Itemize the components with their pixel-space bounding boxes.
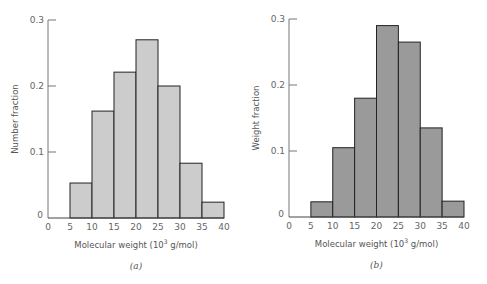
histogram-bar (136, 40, 158, 218)
histogram-bar (92, 111, 114, 218)
histogram-bar (202, 202, 224, 218)
histogram-number-fraction: 00.10.20.3 0510152025303540 Number fract… (0, 0, 243, 284)
x-tick-label: 0 (286, 221, 292, 231)
x-axis-title: Molecular weight (103 g/mol) (315, 237, 438, 249)
histogram-bar (442, 201, 464, 217)
panel-caption: (a) (130, 261, 143, 271)
x-tick-label: 35 (196, 222, 207, 232)
histogram-bar (333, 148, 355, 217)
y-axis-title: Number fraction (10, 84, 20, 154)
x-axis: 0510152025303540 (286, 217, 470, 231)
y-tick-label: 0.1 (271, 146, 285, 156)
y-tick-label: 0.1 (30, 147, 44, 157)
x-axis-title: Molecular weight (103 g/mol) (74, 238, 197, 250)
histogram-bar (355, 98, 377, 217)
x-tick-label: 20 (130, 222, 142, 232)
x-tick-label: 25 (393, 221, 404, 231)
y-tick-label: 0.2 (271, 80, 285, 90)
x-tick-label: 40 (458, 221, 470, 231)
chart-panel-b: 00.10.20.3 0510152025303540 Weight fract… (241, 0, 484, 284)
histogram-bar (70, 183, 92, 218)
x-tick-label: 5 (308, 221, 314, 231)
x-tick-label: 20 (371, 221, 383, 231)
histogram-bar (420, 128, 442, 217)
histogram-bar (377, 26, 399, 217)
x-axis: 0510152025303540 (45, 218, 230, 232)
chart-panel-a: 00.10.20.3 0510152025303540 Number fract… (0, 0, 243, 284)
x-tick-label: 40 (218, 222, 230, 232)
y-axis-title: Weight fraction (251, 86, 261, 151)
x-tick-label: 15 (108, 222, 119, 232)
y-tick-label: 0.3 (271, 14, 285, 24)
histogram-bar (311, 202, 333, 217)
y-tick-label: 0.3 (30, 15, 44, 25)
bars (70, 40, 224, 218)
bars (311, 26, 464, 217)
x-tick-label: 10 (327, 221, 339, 231)
histogram-bar (114, 72, 136, 218)
x-tick-label: 15 (349, 221, 360, 231)
histogram-weight-fraction: 00.10.20.3 0510152025303540 Weight fract… (241, 0, 487, 284)
x-tick-label: 25 (152, 222, 163, 232)
x-tick-label: 5 (67, 222, 73, 232)
y-axis: 00.10.20.3 (30, 15, 56, 220)
x-tick-label: 0 (45, 222, 51, 232)
y-tick-label: 0 (37, 210, 43, 220)
x-tick-label: 30 (415, 221, 427, 231)
x-tick-label: 10 (86, 222, 98, 232)
panel-caption: (b) (370, 260, 383, 270)
histogram-bar (180, 163, 202, 218)
y-axis: 00.10.20.3 (271, 14, 297, 219)
histogram-bar (398, 42, 420, 217)
x-tick-label: 35 (436, 221, 447, 231)
y-tick-label: 0 (278, 209, 284, 219)
x-tick-label: 30 (174, 222, 186, 232)
y-tick-label: 0.2 (30, 81, 44, 91)
histogram-bar (158, 86, 180, 218)
